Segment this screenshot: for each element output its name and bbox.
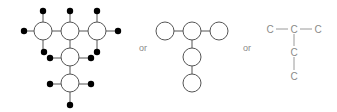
carbon-atoms xyxy=(34,22,106,92)
carbon-label: C xyxy=(290,71,297,82)
hydrogen-atom xyxy=(47,55,53,61)
hydrogen-atom xyxy=(88,81,94,87)
carbon-label: C xyxy=(290,24,297,35)
hydrogen-atom xyxy=(88,55,94,61)
condensed-formula-panel: C C C C C xyxy=(266,24,321,82)
carbon-atom xyxy=(61,48,79,66)
molecule-diagram: or or C C C C C xyxy=(0,0,337,112)
carbon-atom xyxy=(34,22,52,40)
carbon-atom xyxy=(183,48,201,66)
hydrogen-atom xyxy=(47,81,53,87)
hydrogen-atom xyxy=(67,102,73,108)
carbon-label: C xyxy=(314,24,321,35)
hydrogen-atom xyxy=(21,28,27,34)
carbon-atom xyxy=(183,74,201,92)
hydrogen-atom xyxy=(94,8,100,14)
carbon-atom xyxy=(183,22,201,40)
carbon-atom xyxy=(61,22,79,40)
skeleton-circles-panel xyxy=(156,22,228,92)
hydrogen-atom xyxy=(94,49,100,55)
carbon-atom xyxy=(156,22,174,40)
or-separator: or xyxy=(139,43,147,53)
carbon-atom xyxy=(88,22,106,40)
carbon-label: C xyxy=(290,47,297,58)
hydrogen-atom xyxy=(67,8,73,14)
or-separator: or xyxy=(243,43,251,53)
ball-and-stick-panel xyxy=(21,8,121,108)
hydrogen-atom xyxy=(40,8,46,14)
carbon-atom xyxy=(210,22,228,40)
hydrogen-atom xyxy=(115,28,121,34)
carbon-label: C xyxy=(266,24,273,35)
hydrogen-atom xyxy=(41,49,47,55)
carbon-atom xyxy=(61,74,79,92)
